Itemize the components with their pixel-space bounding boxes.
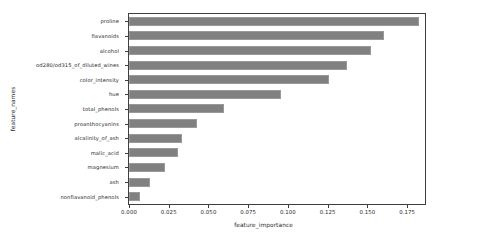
bar-row (129, 29, 425, 44)
bar-row (129, 58, 425, 73)
y-tick-mark (125, 167, 128, 168)
x-tick-label-0.150: 0.150 (359, 209, 375, 215)
bar-proline (129, 17, 419, 26)
bar-proanthocyanins (129, 119, 197, 128)
x-tick-mark (328, 205, 329, 208)
bars-container (129, 14, 425, 204)
y-tick-mark (125, 182, 128, 183)
x-tick-mark (208, 205, 209, 208)
y-tick-mark (125, 94, 128, 95)
y-tick-mark (125, 80, 128, 81)
bar-row (129, 87, 425, 102)
y-tick-mark (125, 197, 128, 198)
y-tick-label-magnesium: magnesium (0, 160, 124, 175)
x-axis-title: feature_importance (0, 222, 478, 228)
y-axis-tick-labels: prolineflavanoidsalcoholod280/od315_of_d… (0, 14, 124, 204)
x-tick-label-0.025: 0.025 (161, 209, 177, 215)
y-tick-mark (125, 36, 128, 37)
y-tick-mark (125, 153, 128, 154)
y-tick-mark (125, 65, 128, 66)
bar-magnesium (129, 163, 165, 172)
bar-hue (129, 90, 281, 99)
x-tick-mark (288, 205, 289, 208)
bar-row (129, 14, 425, 29)
y-tick-label-ash: ash (0, 175, 124, 190)
bar-flavanoids (129, 31, 384, 40)
y-tick-mark (125, 138, 128, 139)
bar-alcohol (129, 46, 371, 55)
bar-row (129, 43, 425, 58)
bar-od280-od315-of-diluted-wines (129, 61, 347, 70)
y-tick-label-total-phenols: total_phenols (0, 102, 124, 117)
x-tick-mark (367, 205, 368, 208)
bar-ash (129, 178, 150, 187)
bar-color-intensity (129, 75, 329, 84)
bar-row (129, 131, 425, 146)
bar-row (129, 102, 425, 117)
bar-total-phenols (129, 104, 224, 113)
y-tick-label-proline: proline (0, 14, 124, 29)
bar-row (129, 72, 425, 87)
y-tick-label-nonflavanoid-phenols: nonflavanoid_phenols (0, 189, 124, 204)
y-tick-mark (125, 51, 128, 52)
y-tick-mark (125, 124, 128, 125)
y-tick-mark (125, 21, 128, 22)
y-tick-label-flavanoids: flavanoids (0, 29, 124, 44)
y-tick-label-color-intensity: color_intensity (0, 72, 124, 87)
bar-row (129, 145, 425, 160)
x-tick-label-0.000: 0.000 (121, 209, 137, 215)
y-tick-label-malic-acid: malic_acid (0, 145, 124, 160)
bar-malic-acid (129, 148, 178, 157)
x-tick-label-0.075: 0.075 (240, 209, 256, 215)
bar-row (129, 175, 425, 190)
y-tick-mark (125, 109, 128, 110)
y-axis-title: feature_names (10, 87, 16, 132)
x-tick-mark (129, 205, 130, 208)
x-axis-title-text: feature_importance (234, 222, 293, 228)
y-tick-label-od280-od315-of-diluted-wines: od280/od315_of_diluted_wines (0, 58, 124, 73)
x-tick-mark (407, 205, 408, 208)
y-tick-label-alcalinity-of-ash: alcalinity_of_ash (0, 131, 124, 146)
x-tick-mark (248, 205, 249, 208)
bar-nonflavanoid-phenols (129, 192, 140, 201)
bar-row (129, 116, 425, 131)
bar-row (129, 189, 425, 204)
x-tick-label-0.175: 0.175 (399, 209, 415, 215)
y-tick-label-hue: hue (0, 87, 124, 102)
x-tick-mark (169, 205, 170, 208)
y-tick-label-alcohol: alcohol (0, 43, 124, 58)
x-tick-label-0.100: 0.100 (280, 209, 296, 215)
x-axis-ticks: 0.0000.0250.0500.0750.1000.1250.1500.175 (0, 205, 478, 219)
y-tick-label-proanthocyanins: proanthocyanins (0, 116, 124, 131)
bar-row (129, 160, 425, 175)
feature-importance-chart: prolineflavanoidsalcoholod280/od315_of_d… (0, 0, 478, 244)
x-tick-label-0.125: 0.125 (320, 209, 336, 215)
x-tick-label-0.050: 0.050 (200, 209, 216, 215)
bar-alcalinity-of-ash (129, 134, 182, 143)
